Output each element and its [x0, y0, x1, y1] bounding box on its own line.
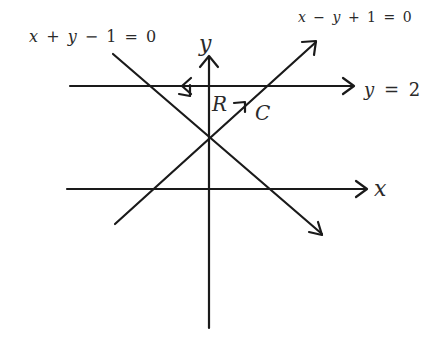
diagram-canvas: y x x + y − 1 = 0 x − y + 1 = 0 y = 2 R … — [0, 0, 439, 349]
line-x-minus-y-plus-1 — [115, 41, 316, 224]
x-axis — [67, 181, 367, 197]
y-axis-label: y — [198, 31, 212, 56]
line-x-plus-y-minus-1 — [113, 54, 322, 235]
x-axis-label: x — [374, 176, 387, 201]
region-label: R — [211, 92, 227, 116]
curve-label: C — [255, 101, 270, 125]
line2-label: x − y + 1 = 0 — [298, 9, 412, 25]
line3-label: y = 2 — [363, 79, 420, 100]
line1-label: x + y − 1 = 0 — [29, 27, 156, 46]
